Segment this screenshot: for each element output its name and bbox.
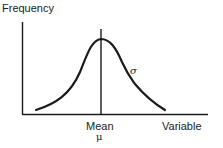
x-axis-label: Variable [162, 120, 202, 132]
sigma-symbol: σ [130, 65, 137, 77]
normal-distribution-diagram: Frequency Variable Mean μ σ [0, 0, 223, 148]
mu-symbol: μ [96, 131, 103, 143]
y-axis-label: Frequency [2, 2, 54, 14]
